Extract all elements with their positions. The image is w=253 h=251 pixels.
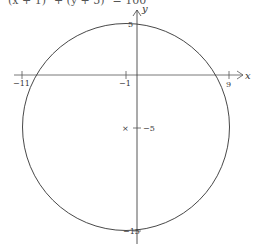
y-tick-label-neg15: −15	[123, 227, 140, 236]
circle-diagram: (x + 1)² + (y + 5)² = 100 x y −11 −1 9 5…	[0, 0, 253, 251]
y-tick-label-neg5: −5	[143, 124, 155, 133]
equation-fragment: (x + 1)² + (y + 5)² = 100	[8, 0, 146, 7]
x-axis-label: x	[245, 70, 251, 81]
y-tick-label-5: 5	[128, 20, 133, 29]
x-tick-label-neg11: −11	[13, 79, 30, 88]
x-tick-label-9: 9	[226, 80, 231, 89]
y-axis-label: y	[141, 3, 148, 14]
x-tick-label-neg1: −1	[119, 79, 131, 88]
center-marker-icon: ×	[122, 124, 129, 133]
